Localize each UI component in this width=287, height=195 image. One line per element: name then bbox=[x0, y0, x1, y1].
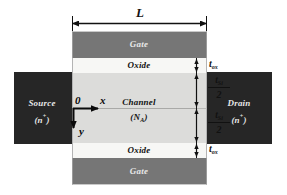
drain-type-superscript: + bbox=[240, 113, 244, 119]
tox-bottom-subscript: ox bbox=[212, 149, 218, 155]
x-axis-label: x bbox=[100, 95, 106, 106]
source-region bbox=[14, 72, 73, 144]
silicon-half-upper-label: tSi 2 bbox=[208, 76, 230, 100]
drain-label: Drain bbox=[227, 99, 250, 108]
source-label: Source bbox=[28, 99, 55, 108]
tsi-upper-denominator: 2 bbox=[208, 89, 230, 100]
oxide-bottom-label: Oxide bbox=[128, 146, 151, 155]
tsi-upper-numerator: tSi bbox=[208, 76, 230, 87]
oxide-thickness-top-label: tox bbox=[209, 59, 218, 69]
tox-top-subscript: ox bbox=[212, 64, 218, 70]
tsi-upper-fraction-bar bbox=[208, 87, 230, 88]
oxide-top-label: Oxide bbox=[128, 61, 151, 70]
device-cross-section-figure: Gate Oxide Channel (NA) Oxide Gate Sourc… bbox=[0, 0, 287, 195]
gate-bottom-label: Gate bbox=[130, 167, 148, 176]
source-type-label: (n+) bbox=[34, 114, 49, 125]
source-type-superscript: + bbox=[43, 113, 47, 119]
channel-length-label: L bbox=[136, 6, 144, 19]
tsi-upper-subscript: Si bbox=[218, 80, 223, 86]
silicon-half-lower-label: tSi 2 bbox=[208, 111, 230, 135]
channel-doping-label: (NA) bbox=[130, 113, 147, 122]
tsi-lower-denominator: 2 bbox=[208, 124, 230, 135]
channel-doping-symbol: N bbox=[134, 112, 141, 122]
channel-doping-subscript: A bbox=[140, 117, 144, 123]
y-axis-label: y bbox=[79, 126, 84, 137]
channel-label: Channel bbox=[122, 98, 155, 107]
tsi-lower-fraction-bar bbox=[208, 122, 230, 123]
drain-type-label: (n+) bbox=[231, 114, 246, 125]
origin-label: 0 bbox=[75, 95, 81, 106]
oxide-thickness-bottom-label: tox bbox=[209, 144, 218, 154]
tsi-lower-subscript: Si bbox=[218, 115, 223, 121]
tsi-lower-numerator: tSi bbox=[208, 111, 230, 122]
gate-top-label: Gate bbox=[130, 40, 148, 49]
